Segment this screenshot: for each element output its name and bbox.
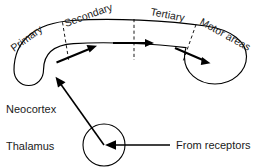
figure-canvas: Primary Secondary Tertiary Motor areas N… [0,0,257,168]
arrow-from-receptors [105,140,170,150]
arrow-thalamus-to-neocortex [56,77,105,145]
neocortex-processing-diagram: Primary Secondary Tertiary Motor areas N… [0,0,257,168]
label-neocortex: Neocortex [6,103,57,115]
arrowhead-icon [105,140,116,150]
arrowhead-icon [56,77,66,88]
label-thalamus: Thalamus [6,140,55,152]
arrowhead-icon [87,45,98,52]
arrow-primary-to-secondary [57,45,98,63]
label-from-receptors: From receptors [176,139,251,151]
